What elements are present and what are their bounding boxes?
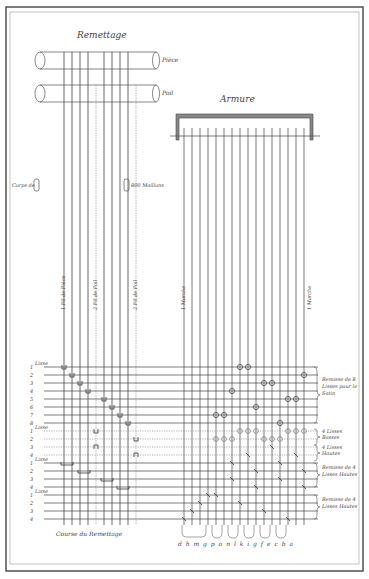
row-label: 3 — [30, 476, 33, 482]
row-header-3: Lisse — [35, 456, 48, 462]
row-label: 4 — [30, 452, 33, 458]
grid-rows-satin — [44, 367, 318, 423]
row-label: 3 — [30, 508, 33, 514]
row-label: 6 — [30, 404, 33, 410]
course-title: Course du Remettage — [56, 530, 122, 537]
brace-label-satin: Remisse de 8 Lisses pour le Satin — [322, 376, 358, 397]
brace-label-remisse-hautes-2: Remisse de 4 Lisses Hautes — [322, 496, 358, 510]
grid-rows-dotted — [44, 431, 318, 455]
remettage-title: Remettage — [77, 30, 127, 40]
row-label: 2 — [30, 372, 33, 378]
row-label: 4 — [30, 388, 33, 394]
vertical-label-marche-right: 1 Marche — [306, 286, 312, 310]
row-label: 4 — [30, 516, 33, 522]
vertical-label-fil-poil-1: 2 Fil de Poil — [92, 280, 98, 310]
right-braces — [314, 367, 320, 519]
row-header-4: Lisse — [35, 488, 48, 494]
brace-label-hautes: 4 Lisses Hautes — [322, 444, 358, 456]
row-label: 2 — [30, 436, 33, 442]
row-header-2: Lisse — [35, 424, 48, 430]
row-label: 2 — [30, 500, 33, 506]
row-label: 5 — [30, 396, 33, 402]
brace-label-basses: 4 Lisses Basses — [322, 428, 358, 440]
armure-title: Armure — [220, 94, 255, 104]
row-label: 3 — [30, 444, 33, 450]
maillon-icon — [34, 179, 129, 191]
grid-rows-hautes — [44, 463, 318, 519]
roller-piece — [35, 52, 160, 69]
armure-frame — [170, 114, 320, 140]
row-header-1: Lisse — [35, 360, 48, 366]
row-label: 1 — [30, 428, 33, 434]
roller-poil — [35, 85, 160, 102]
roller-label-poil: Poil — [162, 89, 173, 96]
treadle-loops — [182, 525, 286, 538]
row-label: 3 — [30, 380, 33, 386]
roller-label-piece: Pièce — [162, 56, 178, 63]
basses-circle-marks — [214, 429, 307, 442]
heddle-marks — [61, 365, 138, 489]
vertical-label-fil-poil-2: 2 Fil de Poil — [132, 280, 138, 310]
vertical-label-fil-piece: 1 Fil de Pièce — [60, 276, 66, 310]
row-label: 1 — [30, 364, 33, 370]
vertical-label-marche-left: 1 Marche — [180, 286, 186, 310]
remettage-poil-threads — [96, 85, 136, 525]
row-label: 7 — [30, 412, 33, 418]
maillons-label: 800 Maillons — [131, 182, 164, 188]
row-label: 8 — [30, 420, 33, 426]
row-label: 4 — [30, 484, 33, 490]
satin-circle-marks — [213, 364, 306, 425]
treadle-letters: d h m g p o n l k i g f e c b a — [178, 540, 294, 547]
row-label: 2 — [30, 468, 33, 474]
row-label: 1 — [30, 492, 33, 498]
row-label: 1 — [30, 460, 33, 466]
hautes-cross-marks — [182, 445, 306, 521]
armure-threads — [184, 128, 304, 525]
corps-label: Corps de — [12, 182, 35, 188]
brace-label-remisse-hautes-1: Remisse de 4 Lisses Hautes — [322, 464, 358, 478]
